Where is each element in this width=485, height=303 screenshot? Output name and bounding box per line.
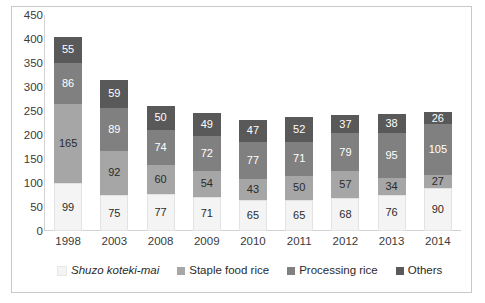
stacked-bar[interactable]: 49725471 <box>193 113 221 231</box>
legend-swatch-icon <box>396 267 404 275</box>
bar-segment: 72 <box>193 136 221 171</box>
bar-segment: 27 <box>424 175 452 188</box>
y-axis-tick-label: 200 <box>12 130 43 140</box>
bar-segment: 57 <box>331 171 359 198</box>
legend-item[interactable]: Shuzo koteki-mai <box>57 265 159 277</box>
bar-column: 49725471 <box>184 15 230 231</box>
bar-segment: 75 <box>100 195 128 231</box>
plot-region: 450400350300250200150100500 558616599598… <box>12 7 473 294</box>
stacked-bar[interactable]: 37795768 <box>331 115 359 231</box>
bar-segment: 71 <box>193 197 221 231</box>
bar-segment: 105 <box>424 124 452 174</box>
bar-segment: 79 <box>331 133 359 171</box>
legend-item[interactable]: Processing rice <box>287 265 378 277</box>
bar-segment: 92 <box>100 151 128 195</box>
bar-segment: 89 <box>100 108 128 151</box>
bar-segment: 76 <box>378 195 406 231</box>
stacked-bar[interactable]: 558616599 <box>54 37 82 231</box>
bar-segment: 60 <box>147 165 175 194</box>
bar-segment: 77 <box>147 194 175 231</box>
legend-swatch-icon <box>177 267 185 275</box>
stacked-bar[interactable]: 261052790 <box>424 112 452 231</box>
y-axis-tick-label: 50 <box>12 202 43 212</box>
bar-segment: 49 <box>193 113 221 137</box>
bar-segment: 99 <box>54 183 82 231</box>
bar-segment: 59 <box>100 80 128 108</box>
bar-segment: 71 <box>285 142 313 176</box>
bar-segment: 52 <box>285 117 313 142</box>
bar-segment: 50 <box>147 106 175 130</box>
x-axis-tick-label: 2003 <box>91 235 137 253</box>
bar-segment: 47 <box>239 120 267 143</box>
legend-label: Processing rice <box>299 265 378 277</box>
bar-segment: 37 <box>331 115 359 133</box>
y-axis: 450400350300250200150100500 <box>12 15 43 231</box>
bar-column: 50746077 <box>137 15 183 231</box>
y-axis-tick-label: 350 <box>12 58 43 68</box>
bar-segment: 34 <box>378 178 406 194</box>
stacked-bar[interactable]: 38953476 <box>378 114 406 231</box>
bar-segment: 77 <box>239 142 267 179</box>
legend-label: Others <box>408 265 443 277</box>
y-axis-tick-label: 0 <box>12 226 43 236</box>
x-axis-tick-label: 2011 <box>276 235 322 253</box>
bar-column: 558616599 <box>45 15 91 231</box>
y-axis-tick-label: 300 <box>12 82 43 92</box>
bar-column: 261052790 <box>415 15 461 231</box>
bar-segment: 90 <box>424 188 452 231</box>
y-axis-tick-label: 150 <box>12 154 43 164</box>
bar-segment: 74 <box>147 130 175 166</box>
bar-column: 59899275 <box>91 15 137 231</box>
bar-column: 37795768 <box>322 15 368 231</box>
bar-column: 52715065 <box>276 15 322 231</box>
x-axis-tick-label: 2009 <box>184 235 230 253</box>
chart-legend: Shuzo koteki-maiStaple food riceProcessi… <box>45 261 461 281</box>
bar-segment: 26 <box>424 112 452 124</box>
x-axis: 199820032008200920102011201220132014 <box>45 235 461 253</box>
y-axis-tick-label: 450 <box>12 10 43 20</box>
legend-item[interactable]: Staple food rice <box>177 265 269 277</box>
bar-segment: 54 <box>193 171 221 197</box>
bar-segment: 43 <box>239 179 267 200</box>
bars-area: 5586165995989927550746077497254714777436… <box>45 15 461 231</box>
legend-label: Staple food rice <box>189 265 269 277</box>
x-axis-tick-label: 2013 <box>369 235 415 253</box>
bar-segment: 65 <box>285 200 313 231</box>
y-axis-tick-label: 100 <box>12 178 43 188</box>
bar-segment: 95 <box>378 133 406 179</box>
x-axis-tick-label: 2012 <box>322 235 368 253</box>
bar-segment: 55 <box>54 37 82 63</box>
bar-segment: 50 <box>285 176 313 200</box>
bar-segment: 38 <box>378 114 406 132</box>
x-axis-tick-label: 2008 <box>137 235 183 253</box>
legend-label: Shuzo koteki-mai <box>71 265 159 277</box>
y-axis-tick-label: 250 <box>12 106 43 116</box>
bar-segment: 86 <box>54 63 82 104</box>
x-axis-tick-label: 2014 <box>415 235 461 253</box>
bar-segment: 68 <box>331 198 359 231</box>
stacked-bar[interactable]: 52715065 <box>285 117 313 231</box>
chart-frame: 450400350300250200150100500 558616599598… <box>11 6 472 293</box>
y-axis-tick-label: 400 <box>12 34 43 44</box>
legend-swatch-icon <box>57 266 67 276</box>
bar-column: 38953476 <box>369 15 415 231</box>
stacked-bar[interactable]: 47774365 <box>239 120 267 231</box>
stacked-bar[interactable]: 59899275 <box>100 80 128 231</box>
legend-swatch-icon <box>287 267 295 275</box>
stacked-bar[interactable]: 50746077 <box>147 106 175 231</box>
bar-segment: 65 <box>239 200 267 231</box>
bar-column: 47774365 <box>230 15 276 231</box>
bar-segment: 165 <box>54 104 82 183</box>
x-axis-tick-label: 2010 <box>230 235 276 253</box>
legend-item[interactable]: Others <box>396 265 443 277</box>
x-axis-tick-label: 1998 <box>45 235 91 253</box>
